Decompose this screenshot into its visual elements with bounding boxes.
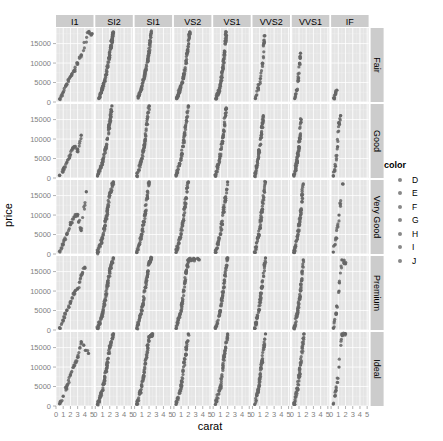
panel-fair-i1 [56, 28, 94, 102]
x-tick-label: 0 [54, 410, 58, 419]
panel-fair-if [331, 28, 369, 102]
panel-very-good-vs2 [174, 180, 212, 254]
legend-item-h: H [378, 227, 443, 241]
panel-premium-vs2 [174, 256, 212, 330]
row-strip-ideal: Ideal [371, 332, 384, 406]
row-strip-label: Good [372, 130, 382, 152]
legend: color DEFGHIJ [378, 160, 443, 268]
y-tick-label: 15000 [30, 343, 51, 352]
x-tick-label: 3 [154, 410, 158, 419]
column-strip-IF: IF [331, 15, 369, 27]
x-tick-label: 0 [290, 410, 294, 419]
column-strip-label: SI1 [147, 17, 161, 27]
x-tick-label: 2 [68, 410, 72, 419]
legend-label: J [412, 256, 416, 266]
x-tick-label: 1 [61, 410, 65, 419]
y-tick-label: 10000 [30, 363, 51, 372]
row-strip-label: Fair [372, 57, 382, 73]
x-tick-label: 0 [172, 410, 176, 419]
panel-good-si2 [95, 104, 133, 178]
legend-item-g: G [378, 214, 443, 228]
legend-items: DEFGHIJ [378, 173, 443, 268]
panel-very-good-vvs2 [253, 180, 291, 254]
y-tick-label: 5000 [34, 78, 51, 87]
panel-good-i1 [56, 104, 94, 178]
x-tick-label: 4 [83, 410, 87, 419]
x-tick-label: 4 [358, 410, 362, 419]
y-tick-label: 5000 [34, 382, 51, 391]
x-tick-label: 3 [233, 410, 237, 419]
y-tick-label: 10000 [30, 59, 51, 68]
legend-item-j: J [378, 254, 443, 268]
x-tick-label: 0 [329, 410, 333, 419]
x-tick-label: 1 [218, 410, 222, 419]
x-tick-label: 1 [179, 410, 183, 419]
panel-premium-if [331, 256, 369, 330]
y-tick-label: 15000 [30, 115, 51, 124]
y-axis-label: price [2, 203, 14, 227]
legend-point-icon [398, 191, 402, 195]
panel-premium-si1 [135, 256, 173, 331]
legend-label: F [412, 202, 417, 212]
panel-very-good-if [331, 180, 369, 254]
panel-very-good-vs1 [213, 180, 251, 254]
y-tick-label: 15000 [30, 39, 51, 48]
column-strip-I1: I1 [56, 15, 94, 27]
x-axis-label: carat [198, 420, 222, 432]
x-tick-label: 0 [211, 410, 215, 419]
legend-label: I [412, 242, 414, 252]
legend-title: color [384, 160, 443, 170]
legend-point-icon [398, 218, 402, 222]
legend-point-icon [398, 245, 402, 249]
panel-ideal-vs2 [174, 332, 212, 406]
panel-ideal-if [331, 332, 369, 407]
x-tick-label: 2 [226, 410, 230, 419]
y-tick-label: 0 [47, 250, 51, 259]
panel-ideal-vvs2 [253, 332, 291, 406]
x-tick-label: 0 [250, 410, 254, 419]
panel-good-vs1 [213, 104, 251, 178]
y-tick-label: 10000 [30, 211, 51, 220]
x-tick-label: 1 [100, 410, 104, 419]
x-axes: 0123450123450123450123450123450123450123… [54, 406, 369, 419]
y-tick-label: 5000 [34, 154, 51, 163]
x-tick-label: 1 [258, 410, 262, 419]
column-strip-SI1: SI1 [135, 15, 173, 27]
legend-point-icon [398, 205, 402, 209]
legend-label: G [412, 215, 419, 225]
column-strip-SI2: SI2 [95, 15, 133, 27]
x-tick-label: 1 [336, 410, 340, 419]
x-tick-label: 3 [351, 410, 355, 419]
panel-very-good-si1 [135, 180, 173, 254]
legend-label: H [412, 229, 418, 239]
panel-ideal-vs1 [213, 332, 251, 406]
column-strip-VS1: VS1 [213, 15, 251, 27]
x-tick-label: 3 [193, 410, 197, 419]
faceted-scatter-chart: I1SI2SI1VS2VS1VVS2VVS1IF FairGoodVery Go… [0, 0, 443, 441]
legend-point-icon [398, 178, 402, 182]
panel-fair-si2 [95, 28, 133, 102]
y-tick-label: 0 [47, 174, 51, 183]
panel-good-si1 [135, 104, 173, 178]
y-axes: 0500010000150000500010000150000500010000… [30, 39, 56, 410]
panel-ideal-i1 [56, 332, 94, 406]
column-strip-label: VS2 [184, 17, 201, 27]
panel-ideal-vvs1 [292, 332, 330, 406]
column-strip-label: VVS1 [299, 17, 322, 27]
x-tick-label: 3 [115, 410, 119, 419]
panel-fair-vvs2 [253, 28, 291, 102]
legend-label: E [412, 188, 418, 198]
y-tick-label: 5000 [34, 306, 51, 315]
facet-panels [56, 28, 369, 407]
legend-item-e: E [378, 187, 443, 201]
y-tick-label: 5000 [34, 230, 51, 239]
panel-premium-vs1 [213, 256, 251, 330]
x-tick-label: 4 [319, 410, 323, 419]
y-tick-label: 10000 [30, 135, 51, 144]
legend-label: D [412, 175, 418, 185]
column-strip-VVS2: VVS2 [253, 15, 291, 27]
x-tick-label: 3 [311, 410, 315, 419]
x-tick-label: 4 [122, 410, 126, 419]
x-tick-label: 5 [365, 410, 369, 419]
panel-fair-si1 [135, 28, 173, 102]
